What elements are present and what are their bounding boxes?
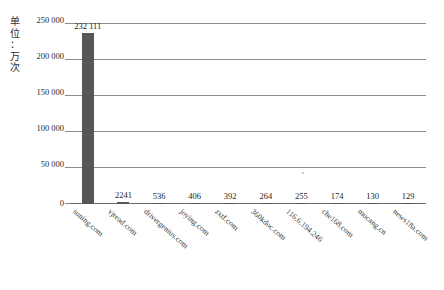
- bar-rect: [82, 33, 94, 204]
- x-axis-label: suning.com: [71, 207, 105, 238]
- bar-rect: [331, 203, 343, 205]
- bar-value-label: 536: [153, 192, 166, 201]
- x-axis-label: 116.6.194.246: [284, 207, 324, 244]
- bar-rect: [367, 203, 379, 205]
- bar-value-label: 264: [259, 192, 272, 201]
- bar-rect: [260, 203, 272, 205]
- y-tick-label-200000: 200 000: [2, 52, 64, 61]
- bar-group: 130: [355, 20, 391, 204]
- bar-group: 255: [283, 20, 319, 204]
- y-tick-label-250000: 250 000: [2, 16, 64, 25]
- x-axis-category-labels: suning.comvjread.comdrivergenius.comjoyi…: [70, 205, 426, 267]
- y-tick-label-150000: 150 000: [2, 88, 64, 97]
- bar-rect: [224, 203, 236, 205]
- x-axis-label: zxtf.com: [213, 207, 240, 232]
- bar-group: 264: [248, 20, 284, 204]
- stray-speck: [302, 172, 304, 174]
- y-axis-tick-labels: 250 000 200 000 150 000 100 000 50 000 0: [0, 20, 64, 204]
- y-tick-label-100000: 100 000: [2, 124, 64, 133]
- bar-value-label: 174: [331, 192, 344, 201]
- bars-layer: 232 1112241536406392264255174130129: [70, 20, 426, 204]
- bar-value-label: 406: [188, 192, 201, 201]
- bar-rect: [153, 203, 165, 205]
- x-axis-label: che168.com: [320, 207, 355, 239]
- bar-group: 174: [319, 20, 355, 204]
- bar-value-label: 130: [366, 192, 379, 201]
- bar-chart-figure: 单 位 ： 万 次 250 000 200 000 150 000 100 00…: [0, 0, 444, 290]
- bar-group: 392: [212, 20, 248, 204]
- bar-group: 129: [390, 20, 426, 204]
- x-axis-label: 360kdoc.com: [249, 207, 288, 242]
- bar-value-label: 392: [224, 192, 237, 201]
- bar-value-label: 255: [295, 192, 308, 201]
- bar-value-label: 129: [402, 192, 415, 201]
- bar-group: 2241: [105, 20, 141, 204]
- x-axis-label: vjread.com: [106, 207, 139, 237]
- x-axis-label: joying.com: [178, 207, 211, 238]
- bar-group: 232 111: [70, 20, 106, 204]
- bar-group: 536: [141, 20, 177, 204]
- x-axis-label: news18a.com: [391, 207, 430, 243]
- bar-value-label: 2241: [115, 191, 132, 200]
- plot-area: 232 1112241536406392264255174130129: [70, 20, 426, 204]
- x-axis-label: mucang.cn: [356, 207, 388, 237]
- bar-rect: [402, 203, 414, 205]
- bar-rect: [295, 203, 307, 205]
- bar-rect: [117, 202, 129, 204]
- bar-rect: [189, 203, 201, 205]
- y-tick-label-0: 0: [2, 199, 64, 208]
- y-tick-label-50000: 50 000: [2, 160, 64, 169]
- bar-value-label: 232 111: [74, 22, 101, 31]
- bar-group: 406: [177, 20, 213, 204]
- figure-caption: [0, 285, 444, 290]
